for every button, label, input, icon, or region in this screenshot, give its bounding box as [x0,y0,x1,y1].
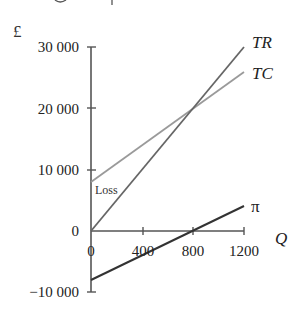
x-tick-label-0: 0 [87,243,95,259]
pi-label: π [251,197,260,216]
x-tick-label-400: 400 [132,243,155,259]
loss-label: Loss [95,183,118,197]
x-tick-label-1200: 1200 [229,243,259,259]
x-axis-label: Q [275,229,287,248]
profit-line [91,206,244,280]
y-tick-label-neg10000: −10 000 [29,284,79,300]
profit-chart: £ 30 000 20 000 10 000 0 −10 000 0 400 8… [0,0,307,314]
y-tick-label-10000: 10 000 [38,162,79,178]
tr-label: TR [252,33,272,52]
tr-line [91,47,244,231]
x-tick-label-800: 800 [182,243,205,259]
y-tick-label-20000: 20 000 [38,101,79,117]
y-unit-label: £ [13,22,22,41]
cropped-top-text [55,0,112,5]
y-tick-label-0: 0 [72,223,80,239]
tc-line [91,72,244,182]
tc-label: TC [252,64,273,83]
y-tick-label-30000: 30 000 [38,39,79,55]
